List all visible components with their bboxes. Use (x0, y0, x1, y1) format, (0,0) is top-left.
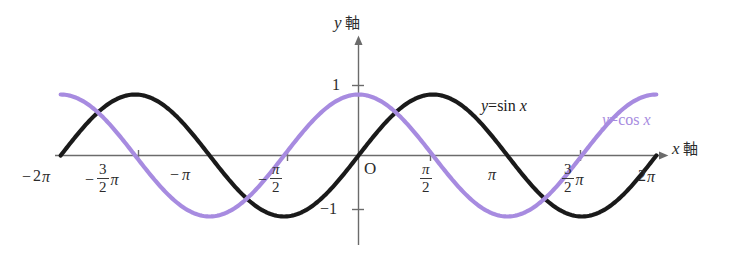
sine-label-var: x (520, 97, 527, 114)
x-axis-label-var: x (672, 139, 680, 158)
cosine-label-eq: = (609, 111, 618, 128)
tick-minus: − (258, 172, 267, 188)
y-axis-label-kanji: 軸 (345, 14, 360, 32)
x-tick-label-neg-pi: −π (170, 166, 190, 183)
x-tick-label-3pi-over-2: 32π (561, 163, 584, 196)
tick-pi: π (647, 169, 655, 185)
x-tick-label-neg-3pi-over-2: −32π (85, 163, 119, 196)
tick-pi: π (576, 172, 584, 188)
tick-pi: π (111, 172, 119, 188)
fraction-denominator: 2 (97, 178, 109, 195)
fraction-denominator: 2 (270, 178, 282, 195)
fraction-numerator: π (270, 162, 282, 178)
y-axis-label-var: y (334, 13, 342, 32)
x-axis-label-kanji: 軸 (683, 140, 698, 158)
tick-minus: − (170, 167, 179, 183)
y-axis-label: y軸 (334, 14, 360, 31)
tick-fraction: π2 (420, 162, 432, 195)
trig-graph-figure: y軸 x軸 y=sin x y=cos x O 1 −1 −2π −32π −π… (0, 0, 733, 255)
tick-pi: π (488, 167, 496, 183)
tick-coeff: 2 (33, 167, 41, 184)
tick-fraction: 32 (97, 162, 109, 195)
sine-curve-label: y=sin x (481, 98, 527, 114)
cosine-label-var: x (643, 111, 650, 128)
sine-label-eq: = (488, 97, 497, 114)
fraction-denominator: 2 (562, 178, 574, 195)
x-tick-label-neg-pi-over-2: −π2 (258, 163, 283, 196)
sine-label-fn: sin (497, 97, 516, 114)
cosine-curve-label: y=cos x (602, 112, 651, 128)
tick-fraction: π2 (270, 162, 282, 195)
tick-pi: π (42, 169, 50, 185)
y-tick-label-1: 1 (332, 77, 340, 93)
tick-minus: − (85, 172, 94, 188)
fraction-numerator: 3 (97, 162, 109, 178)
y-tick-label-neg1: −1 (320, 201, 337, 217)
fraction-numerator: 3 (562, 162, 574, 178)
cosine-label-fn: cos (618, 111, 639, 128)
origin-label: O (364, 160, 376, 177)
x-tick-label-pi: π (487, 166, 496, 183)
tick-fraction: 32 (562, 162, 574, 195)
tick-coeff: 2 (638, 167, 646, 184)
x-tick-label-2pi: 2π (638, 168, 655, 185)
x-tick-label-pi-over-2: π2 (419, 163, 433, 196)
tick-pi: π (182, 167, 190, 183)
x-axis-label: x軸 (672, 140, 698, 157)
tick-minus: − (22, 169, 31, 185)
fraction-numerator: π (420, 162, 432, 178)
fraction-denominator: 2 (420, 178, 432, 195)
x-tick-label-neg-2pi: −2π (22, 168, 50, 185)
